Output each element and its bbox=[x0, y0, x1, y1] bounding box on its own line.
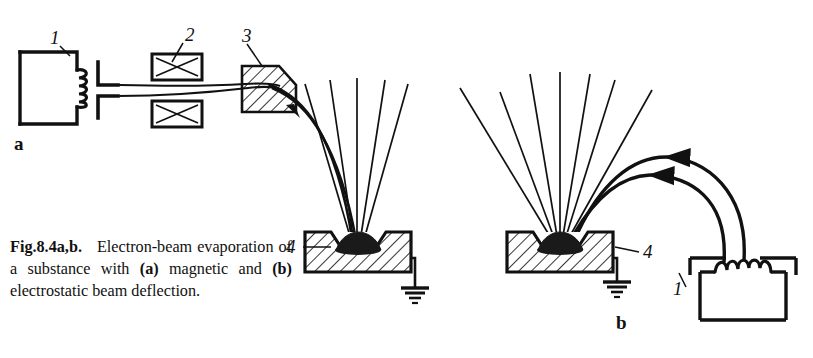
vapor-plume-a bbox=[305, 78, 408, 243]
electron-beam-a bbox=[118, 83, 356, 240]
anode-plates-a bbox=[98, 62, 118, 118]
figure-root: 1 2 3 4 bbox=[0, 0, 813, 358]
caption-part-2: magnetic and bbox=[159, 260, 273, 278]
panel-letter-a: a bbox=[14, 133, 24, 155]
panel-letter-b: b bbox=[616, 312, 627, 334]
lens-coil-lower bbox=[152, 101, 202, 127]
label-2-panel-a: 2 bbox=[185, 24, 195, 45]
label-leaders-a bbox=[60, 43, 331, 247]
filament-coil-icon bbox=[77, 70, 87, 108]
label-1-panel-a: 1 bbox=[50, 27, 60, 48]
filament-coil-icon-b bbox=[715, 260, 771, 272]
crucible-b bbox=[507, 232, 613, 272]
crucible-a bbox=[305, 232, 411, 272]
panel-b-group: 4 1 bbox=[460, 72, 796, 320]
electron-gun-b bbox=[690, 258, 796, 320]
label-3-panel-a: 3 bbox=[241, 25, 252, 46]
caption-part-3: electrostatic beam deflection. bbox=[10, 282, 200, 300]
electron-gun-a bbox=[20, 52, 87, 124]
electron-beam-evaporation-diagram: 1 2 3 4 bbox=[0, 0, 813, 358]
magnetic-lens-a bbox=[152, 54, 202, 127]
deflector-prism-a bbox=[242, 66, 296, 112]
caption-bold-a: (a) bbox=[140, 260, 159, 278]
label-4-panel-b: 4 bbox=[643, 241, 653, 262]
caption-figure-number: Fig.8.4a,b. bbox=[10, 238, 82, 256]
figure-caption: Fig.8.4a,b. Electron-beam evaporation of… bbox=[10, 236, 292, 302]
caption-bold-b: (b) bbox=[272, 260, 292, 278]
vapor-plume-b bbox=[460, 72, 652, 243]
lens-coil-upper bbox=[152, 54, 202, 80]
label-1-panel-b: 1 bbox=[673, 278, 683, 299]
